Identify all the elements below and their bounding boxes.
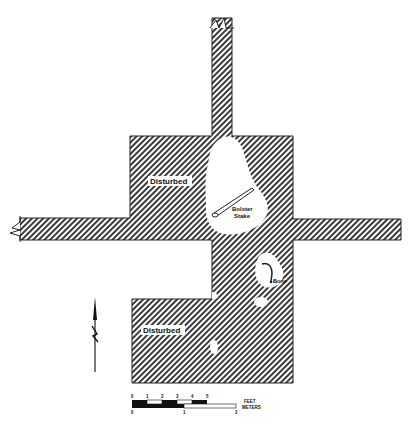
excavation-plan: Bolster Stake Bone Disturbed Disturbed 0… bbox=[0, 0, 415, 424]
label-disturbed-lower: Disturbed bbox=[143, 326, 180, 335]
tick-feet-5: 5 bbox=[206, 394, 209, 399]
tick-feet-3: 3 bbox=[176, 394, 179, 399]
tick-feet-2: 2 bbox=[161, 394, 164, 399]
feature-area-small-1 bbox=[254, 297, 268, 307]
label-bolster: Bolster bbox=[232, 206, 253, 212]
scale-feet-label: FEET bbox=[244, 399, 256, 404]
north-arrow-icon bbox=[92, 297, 98, 372]
feature-area-small-2 bbox=[210, 340, 218, 354]
tick-feet-0: 0 bbox=[131, 394, 134, 399]
tick-feet-4: 4 bbox=[191, 394, 194, 399]
label-disturbed-upper: Disturbed bbox=[150, 177, 187, 186]
tick-meters-0: 0 bbox=[131, 410, 134, 415]
label-bone: Bone bbox=[273, 278, 287, 284]
label-stake: Stake bbox=[234, 213, 251, 219]
break-mark-left-icon bbox=[10, 216, 20, 242]
scale-meters-label: METERS bbox=[242, 405, 261, 410]
tick-meters-1: 1 bbox=[183, 410, 186, 415]
scale-bar bbox=[132, 400, 236, 408]
tick-feet-1: 1 bbox=[146, 394, 149, 399]
tick-meters-2: 2 bbox=[235, 410, 238, 415]
